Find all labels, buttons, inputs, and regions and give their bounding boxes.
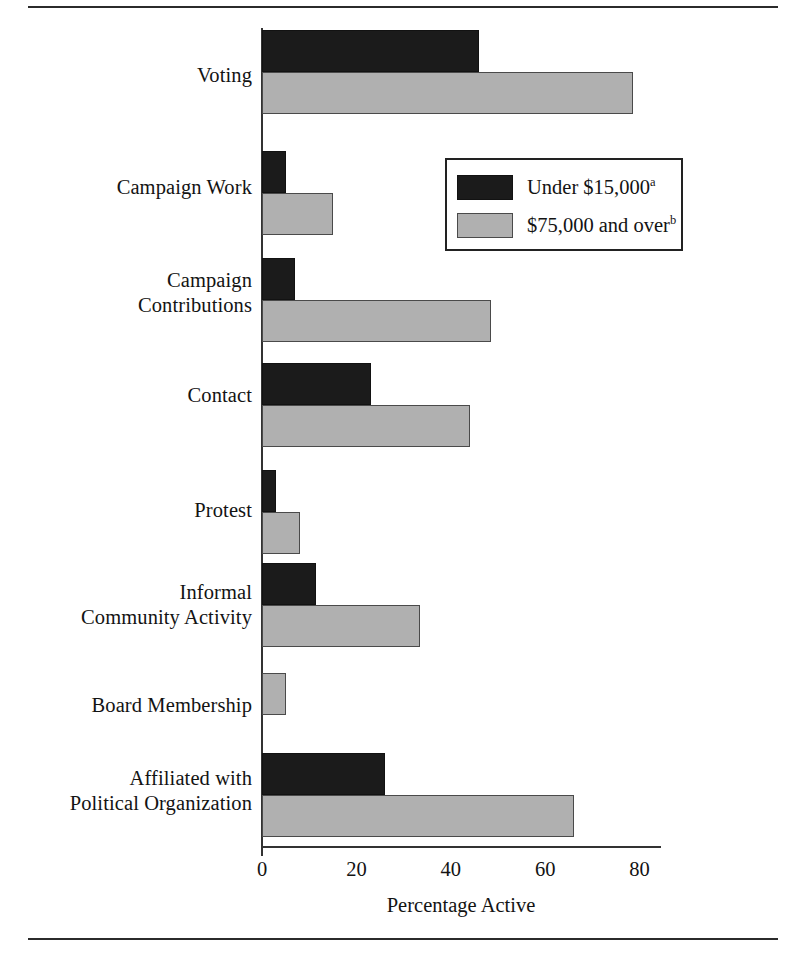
bars	[262, 563, 420, 647]
bottom-rule	[28, 938, 778, 940]
bar-75000-and-over[interactable]	[262, 605, 420, 647]
category-label-line: Campaign Work	[12, 175, 252, 200]
bars	[262, 151, 333, 235]
legend-footnote-marker: a	[650, 175, 656, 189]
x-tick-label: 40	[421, 858, 481, 881]
category-label-line: Protest	[12, 498, 252, 523]
bars	[262, 753, 574, 837]
category-label-line: Voting	[12, 63, 252, 88]
category-label: InformalCommunity Activity	[12, 580, 252, 630]
category-label-line: Board Membership	[12, 693, 252, 718]
x-tick-label: 20	[326, 858, 386, 881]
bar-chart: VotingCampaign WorkCampaignContributions…	[0, 18, 803, 848]
bar-75000-and-over[interactable]	[262, 795, 574, 837]
category-label: CampaignContributions	[12, 268, 252, 318]
category-label: Protest	[12, 498, 252, 523]
bar-75000-and-over[interactable]	[262, 300, 491, 342]
bars	[262, 673, 286, 715]
bars	[262, 30, 633, 114]
x-tick-label: 60	[515, 858, 575, 881]
top-rule	[28, 6, 778, 8]
category-label-line: Contributions	[12, 293, 252, 318]
x-tick-label: 0	[232, 858, 292, 881]
legend-swatch-dark	[457, 175, 513, 200]
category-label-line: Community Activity	[12, 605, 252, 630]
legend-item-75000-and-over[interactable]: $75,000 and overb	[457, 206, 671, 244]
category-label-line: Informal	[12, 580, 252, 605]
category-label: Board Membership	[12, 693, 252, 718]
category-label: Affiliated withPolitical Organization	[12, 766, 252, 816]
category-label-line: Campaign	[12, 268, 252, 293]
category-label: Voting	[12, 63, 252, 88]
bar-75000-and-over[interactable]	[262, 193, 333, 235]
legend-footnote-marker: b	[670, 213, 676, 227]
legend: Under $15,000a $75,000 and overb	[445, 158, 683, 251]
legend-item-under-15000[interactable]: Under $15,000a	[457, 168, 671, 206]
bar-under-15000[interactable]	[262, 258, 295, 300]
category-label: Contact	[12, 383, 252, 408]
bar-75000-and-over[interactable]	[262, 72, 633, 114]
category-label-line: Affiliated with	[12, 766, 252, 791]
bars	[262, 470, 300, 554]
category-label: Campaign Work	[12, 175, 252, 200]
bar-75000-and-over[interactable]	[262, 405, 470, 447]
category-label-line: Contact	[12, 383, 252, 408]
bar-under-15000[interactable]	[262, 470, 276, 512]
bar-under-15000[interactable]	[262, 753, 385, 795]
bar-under-15000[interactable]	[262, 363, 371, 405]
value-axis-line	[261, 846, 661, 848]
bar-under-15000[interactable]	[262, 30, 479, 72]
category-label-line: Political Organization	[12, 791, 252, 816]
bar-75000-and-over[interactable]	[262, 673, 286, 715]
x-tick-label: 80	[610, 858, 670, 881]
bar-under-15000[interactable]	[262, 151, 286, 193]
bars	[262, 363, 470, 447]
bars	[262, 258, 491, 342]
legend-label-under-15000: Under $15,000a	[527, 176, 656, 199]
bar-under-15000[interactable]	[262, 563, 316, 605]
legend-swatch-light	[457, 213, 513, 238]
bar-75000-and-over[interactable]	[262, 512, 300, 554]
x-axis-title: Percentage Active	[261, 894, 661, 917]
legend-label-75000-and-over: $75,000 and overb	[527, 214, 676, 237]
